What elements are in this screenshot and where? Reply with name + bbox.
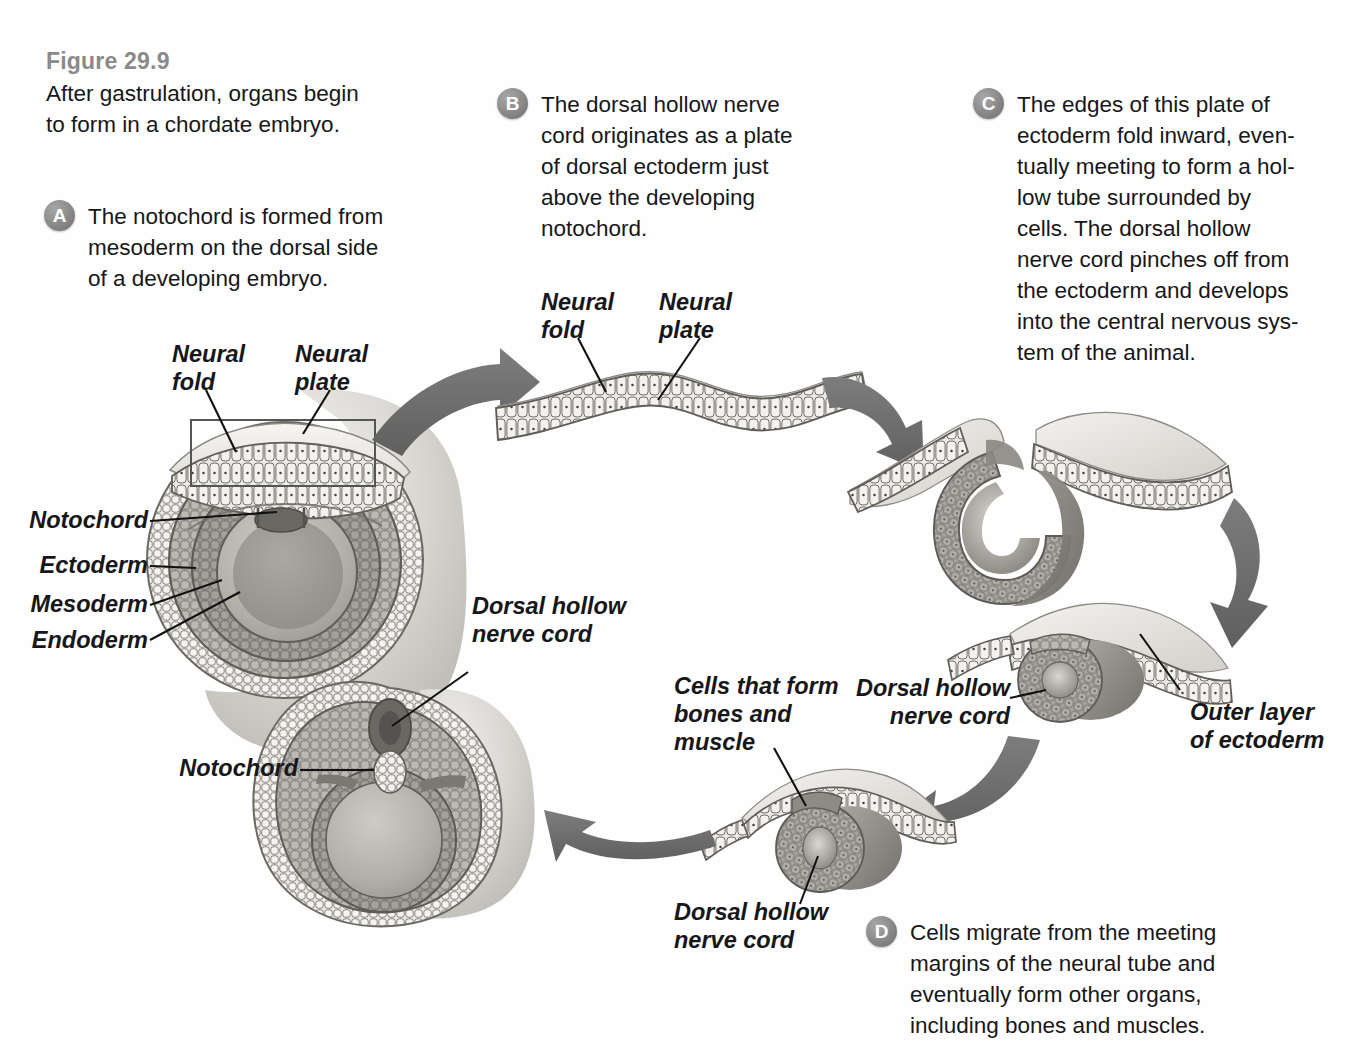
label-embryo-a-neural-fold: Neural fold [172, 340, 245, 396]
arrow-tube-to-d [896, 736, 1040, 840]
arrow-c-to-tube [1210, 498, 1268, 648]
stage-b-neural-plate-illustration [496, 338, 868, 440]
label-plate-b-neural-fold: Neural fold [541, 288, 614, 344]
figure-number: Figure 29.9 [46, 48, 170, 75]
label-embryo-a-endoderm: Endoderm [0, 626, 148, 654]
arrow-b-to-c [822, 377, 924, 472]
figure-lead-text: After gastrulation, organs begin to form… [46, 78, 359, 140]
label-embryo-a-neural-plate: Neural plate [295, 340, 368, 396]
caption-a: The notochord is formed from mesoderm on… [44, 201, 414, 294]
label-embryo-a-notochord: Notochord [0, 506, 148, 534]
label-embryo-a-mesoderm: Mesoderm [0, 590, 148, 618]
label-tube-c-outer-ectoderm: Outer layer of ectoderm [1190, 698, 1325, 754]
stage-d-neural-crest-illustration [700, 748, 956, 904]
label-embryo-a-ectoderm: Ectoderm [0, 551, 148, 579]
label-crest-d-cells-bones-muscle: Cells that form bones and muscle [674, 672, 839, 756]
label-crest-d-dorsal-nerve-cord: Dorsal hollow nerve cord [674, 898, 828, 954]
caption-b-text: The dorsal hollow nerve cord originates … [541, 89, 827, 244]
caption-d: Cells migrate from the meeting margins o… [866, 917, 1286, 1040]
final-embryo-illustration [253, 672, 534, 926]
label-final-notochord: Notochord [140, 754, 298, 782]
stage-a-embryo-illustration [147, 389, 467, 754]
caption-b: The dorsal hollow nerve cord originates … [497, 89, 827, 244]
label-tube-c-dorsal-nerve-cord: Dorsal hollow nerve cord [838, 674, 1010, 730]
stage-c-folding-plate-illustration [848, 412, 1232, 606]
caption-c-text: The edges of this plate of ectoderm fold… [1017, 89, 1323, 368]
caption-d-text: Cells migrate from the meeting margins o… [910, 917, 1286, 1040]
label-plate-b-neural-plate: Neural plate [659, 288, 732, 344]
caption-c: The edges of this plate of ectoderm fold… [973, 89, 1323, 368]
callout-box-neural-plate [191, 420, 375, 486]
arrow-a-to-b [372, 348, 540, 456]
arrow-d-to-final [544, 810, 716, 862]
label-final-dorsal-nerve-cord: Dorsal hollow nerve cord [472, 592, 626, 648]
caption-a-text: The notochord is formed from mesoderm on… [88, 201, 414, 294]
